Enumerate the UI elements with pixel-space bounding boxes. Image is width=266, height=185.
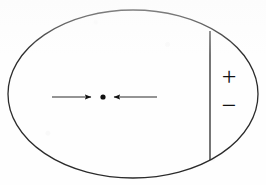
plus-sign-icon: + bbox=[222, 62, 237, 91]
diagram-svg: + − bbox=[0, 0, 266, 185]
center-charge-dot bbox=[100, 94, 105, 99]
boundary-ellipse bbox=[8, 10, 258, 178]
minus-sign-icon: − bbox=[222, 91, 237, 120]
figure-canvas: + − bbox=[0, 0, 266, 185]
